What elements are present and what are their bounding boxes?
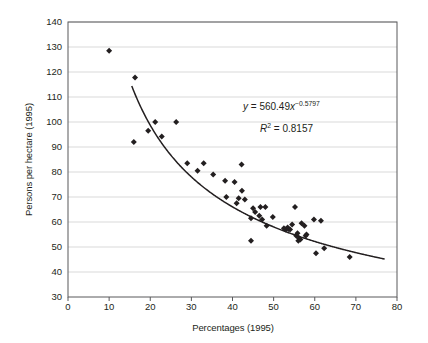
data-point — [270, 214, 276, 220]
plot-border — [68, 22, 397, 297]
equation-coefficient: 560.49 — [259, 101, 290, 112]
data-point — [239, 162, 245, 168]
equation-equals: = — [251, 101, 257, 112]
data-point — [347, 254, 353, 260]
data-point — [184, 160, 190, 166]
r-squared-equals: = — [274, 123, 280, 134]
data-point — [173, 119, 179, 125]
data-point — [262, 204, 268, 210]
data-point — [159, 134, 165, 140]
data-point — [131, 139, 137, 145]
data-point — [239, 188, 245, 194]
data-points — [106, 48, 353, 260]
data-point — [201, 160, 207, 166]
scatter-chart: Persons per hectare (1995) 3040506070809… — [0, 0, 428, 343]
equation-annotation: y = 560.49x−0.5797 — [243, 100, 320, 112]
data-point — [232, 179, 238, 185]
data-point — [223, 194, 229, 200]
data-point — [222, 178, 228, 184]
gridlines — [68, 22, 397, 272]
plot-area — [0, 0, 428, 343]
data-point — [132, 75, 138, 81]
data-point — [318, 218, 324, 224]
data-point — [321, 245, 327, 251]
data-point — [145, 128, 151, 134]
equation-y-symbol: y — [243, 101, 248, 112]
data-point — [195, 168, 201, 174]
data-point — [248, 238, 254, 244]
data-point — [292, 204, 298, 210]
data-point — [152, 119, 158, 125]
equation-exponent: −0.5797 — [295, 100, 320, 107]
x-axis-tick-marks — [68, 297, 397, 301]
r-squared-value: 0.8157 — [282, 123, 313, 134]
data-point — [106, 48, 112, 54]
data-point — [313, 250, 319, 256]
r-squared-power: 2 — [267, 122, 271, 129]
r-squared-annotation: R2 = 0.8157 — [260, 122, 313, 134]
